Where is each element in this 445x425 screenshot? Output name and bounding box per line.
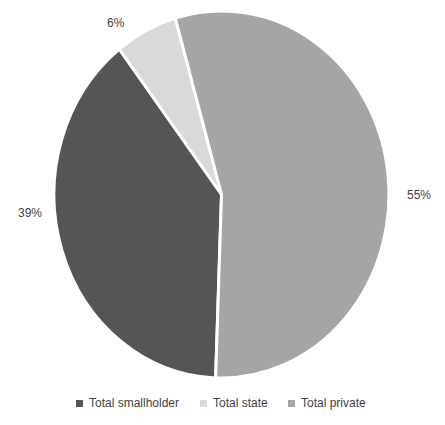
slice-value-label-total-state: 6%	[107, 16, 124, 30]
legend-swatch-total-private	[288, 400, 295, 407]
legend-swatch-total-state	[200, 400, 207, 407]
legend-item-total-state: Total state	[200, 395, 268, 411]
slice-value-label-total-private: 55%	[407, 188, 431, 202]
slice-value-label-total-smallholder: 39%	[18, 206, 42, 220]
legend-item-total-smallholder: Total smallholder	[76, 395, 179, 411]
pie-chart	[0, 0, 445, 425]
legend-label-total-smallholder: Total smallholder	[89, 396, 179, 410]
legend-swatch-total-smallholder	[76, 400, 83, 407]
pie-chart-figure: 39% 6% 55% Total smallholder Total state…	[0, 0, 445, 425]
legend-label-total-state: Total state	[213, 396, 268, 410]
chart-legend: Total smallholder Total state Total priv…	[0, 395, 445, 415]
legend-item-total-private: Total private	[288, 395, 366, 411]
legend-label-total-private: Total private	[301, 396, 366, 410]
